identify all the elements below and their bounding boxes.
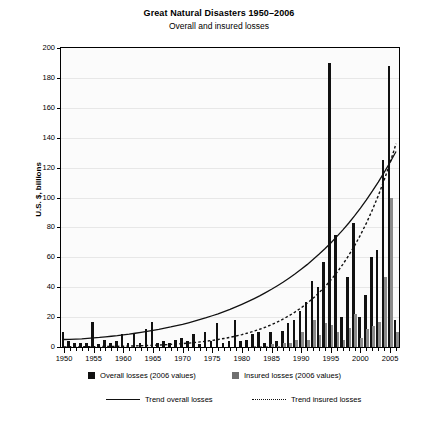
legend-swatch-insured-icon	[232, 372, 239, 379]
legend-label-trend-overall: Trend overall losses	[145, 395, 213, 404]
x-tick-minor	[218, 347, 219, 351]
y-tick-label: 120	[29, 163, 55, 172]
x-tick-minor	[82, 347, 83, 351]
plot-inner	[61, 48, 399, 347]
x-tick-minor	[396, 347, 397, 351]
y-tick	[57, 78, 61, 79]
x-tick-minor	[230, 347, 231, 351]
x-tick-minor	[111, 347, 112, 351]
legend-label-trend-insured: Trend insured losses	[291, 395, 361, 404]
x-tick-major	[123, 347, 124, 353]
x-tick-minor	[260, 347, 261, 351]
x-tick-minor	[194, 347, 195, 351]
x-tick-minor	[349, 347, 350, 351]
x-tick-minor	[384, 347, 385, 351]
y-tick-label: 60	[29, 252, 55, 261]
x-tick-minor	[206, 347, 207, 351]
plot-area: 020406080100120140160180200 195019551960…	[60, 47, 400, 348]
y-tick-label: 100	[29, 193, 55, 202]
chart-figure: Great Natural Disasters 1950–2006 Overal…	[0, 0, 438, 429]
y-tick	[57, 257, 61, 258]
x-tick-minor	[319, 347, 320, 351]
y-tick	[57, 287, 61, 288]
x-tick-minor	[76, 347, 77, 351]
chart-subtitle: Overall and insured losses	[0, 21, 438, 31]
x-tick-major	[242, 347, 243, 353]
y-tick	[57, 48, 61, 49]
y-tick-label: 0	[29, 342, 55, 351]
x-tick-minor	[366, 347, 367, 351]
x-tick-minor	[254, 347, 255, 351]
y-axis-label: U.S. $, billions	[34, 130, 43, 250]
x-tick-major	[153, 347, 154, 353]
x-tick-major	[360, 347, 361, 353]
x-tick-minor	[188, 347, 189, 351]
x-tick-minor	[378, 347, 379, 351]
legend-label-insured: Insured losses (2006 values)	[244, 371, 341, 380]
legend-item-trend-insured: Trend insured losses	[252, 395, 361, 404]
trend-insured-line	[64, 144, 396, 347]
y-tick-label: 160	[29, 103, 55, 112]
x-tick-minor	[129, 347, 130, 351]
x-tick-minor	[372, 347, 373, 351]
x-tick-minor	[200, 347, 201, 351]
x-tick-major	[94, 347, 95, 353]
x-tick-minor	[266, 347, 267, 351]
x-tick-minor	[337, 347, 338, 351]
legend-item-overall-losses: Overall losses (2006 values)	[88, 371, 196, 380]
x-tick-minor	[105, 347, 106, 351]
x-tick-minor	[70, 347, 71, 351]
x-tick-major	[390, 347, 391, 353]
y-tick	[57, 317, 61, 318]
x-tick-minor	[248, 347, 249, 351]
x-tick-minor	[100, 347, 101, 351]
x-tick-major	[301, 347, 302, 353]
x-tick-minor	[283, 347, 284, 351]
trend-overall-line	[64, 151, 396, 339]
x-tick-major	[64, 347, 65, 353]
legend-solid-line-icon	[106, 399, 140, 400]
y-tick-label: 40	[29, 282, 55, 291]
x-tick-minor	[295, 347, 296, 351]
y-tick-label: 180	[29, 73, 55, 82]
legend-item-trend-overall: Trend overall losses	[106, 395, 213, 404]
x-tick-minor	[135, 347, 136, 351]
y-tick	[57, 168, 61, 169]
x-tick-major	[212, 347, 213, 353]
x-tick-minor	[277, 347, 278, 351]
x-tick-minor	[117, 347, 118, 351]
x-tick-minor	[141, 347, 142, 351]
x-tick-major	[272, 347, 273, 353]
x-tick-minor	[88, 347, 89, 351]
x-tick-minor	[147, 347, 148, 351]
x-tick-minor	[355, 347, 356, 351]
y-tick-label: 80	[29, 222, 55, 231]
x-tick-minor	[224, 347, 225, 351]
x-tick-minor	[307, 347, 308, 351]
legend-label-overall: Overall losses (2006 values)	[100, 371, 196, 380]
y-tick	[57, 138, 61, 139]
x-tick-minor	[177, 347, 178, 351]
legend-dotted-line-icon	[252, 399, 286, 400]
x-tick-minor	[236, 347, 237, 351]
legend-row-series: Overall losses (2006 values) Insured los…	[0, 371, 438, 385]
y-tick-label: 140	[29, 133, 55, 142]
legend-swatch-overall-icon	[88, 372, 95, 379]
legend-item-insured-losses: Insured losses (2006 values)	[232, 371, 341, 380]
x-tick-label: 2005	[373, 354, 407, 363]
y-tick	[57, 108, 61, 109]
x-tick-minor	[343, 347, 344, 351]
y-tick	[57, 227, 61, 228]
chart-title: Great Natural Disasters 1950–2006	[0, 8, 438, 18]
x-tick-major	[331, 347, 332, 353]
y-tick	[57, 198, 61, 199]
x-tick-minor	[325, 347, 326, 351]
legend-row-trends: Trend overall losses Trend insured losse…	[0, 395, 438, 409]
y-tick-label: 200	[29, 43, 55, 52]
trend-lines	[61, 48, 399, 347]
x-tick-minor	[165, 347, 166, 351]
x-tick-minor	[313, 347, 314, 351]
x-tick-minor	[289, 347, 290, 351]
x-tick-minor	[171, 347, 172, 351]
y-tick	[57, 347, 61, 348]
